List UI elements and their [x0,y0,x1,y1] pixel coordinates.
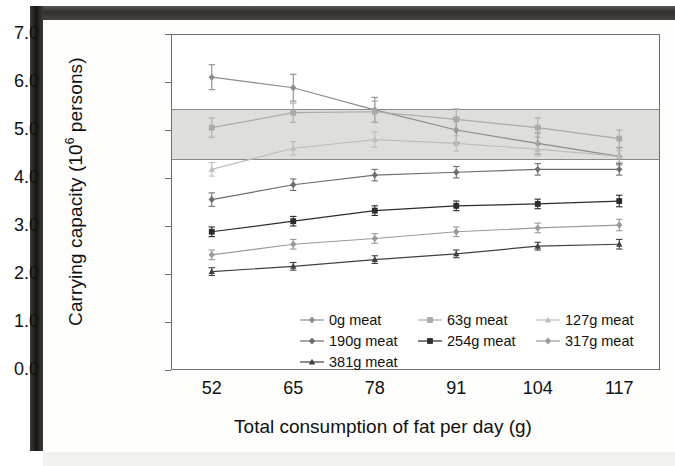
y-axis-tick-mark [165,370,171,371]
data-point [372,109,378,115]
data-point [290,84,296,91]
y-axis-tick-label: 4.0 [0,167,39,188]
data-point [209,125,215,131]
series-0g-meat [209,65,623,165]
x-axis-tick-label: 104 [523,378,553,399]
y-axis-tick-label: 2.0 [0,263,39,284]
legend-swatch-square-icon [417,335,443,347]
legend-swatch-square-icon [417,314,443,326]
legend-item: 381g meat [299,354,413,370]
legend-item: 63g meat [417,312,531,328]
data-point [372,172,378,179]
series-63g-meat [209,101,623,147]
data-point [616,198,622,204]
legend-label: 0g meat [329,312,381,328]
legend-item: 0g meat [299,312,413,328]
data-point [616,222,622,229]
data-point [372,208,378,214]
data-point [535,201,541,207]
data-point [535,166,541,173]
legend-item: 254g meat [417,333,531,349]
data-point [372,235,378,242]
data-point [209,251,215,258]
legend-item: 127g meat [535,312,649,328]
figure-page: Carrying capacity (106 persons) 0.01.02.… [43,20,675,452]
legend-label: 254g meat [447,333,516,349]
y-axis-tick-label: 0.0 [0,359,39,380]
y-axis-tick-label: 3.0 [0,215,39,236]
data-point [290,181,296,188]
series-317g-meat [209,219,623,259]
data-point [290,218,296,224]
x-axis-tick-label: 78 [365,378,385,399]
series-381g-meat [209,239,623,275]
y-axis-tick-label: 1.0 [0,311,39,332]
series-254g-meat [209,195,623,236]
legend-label: 190g meat [329,333,398,349]
y-axis-tick-label: 5.0 [0,119,39,140]
y-axis-tick-label: 6.0 [0,71,39,92]
x-axis-label: Total consumption of fat per day (g) [103,416,663,438]
scan-edge-bottom [43,452,675,466]
x-axis-tick-label: 117 [605,378,634,399]
legend-label: 317g meat [565,333,634,349]
legend-label: 63g meat [447,312,507,328]
data-point [453,117,459,123]
data-point [616,136,622,142]
data-point [453,203,459,209]
x-axis-tick-label: 52 [202,378,222,399]
data-point [290,110,296,116]
legend-swatch-triangle-icon [299,356,325,368]
data-point [209,74,215,81]
data-point [453,169,459,176]
y-axis-label-tail: persons) [65,57,86,137]
legend-item: 317g meat [535,333,649,349]
legend-swatch-diamond-icon [299,335,325,347]
data-point [209,196,215,203]
legend-label: 381g meat [329,354,398,370]
y-axis-label-main: Carrying capacity (10 [65,144,86,326]
legend-item: 190g meat [299,333,413,349]
data-point [453,228,459,235]
x-axis-tick-label: 91 [446,378,466,399]
y-axis-tick-label: 7.0 [0,23,39,44]
chart-legend: 0g meat63g meat127g meat190g meat254g me… [299,312,649,370]
y-axis-label-exponent: 6 [63,138,77,145]
x-axis-tick-label: 65 [283,378,303,399]
legend-swatch-diamond-icon [299,314,325,326]
series-190g-meat [209,164,623,207]
data-point [616,166,622,173]
y-axis-label: Carrying capacity (106 persons) [63,42,86,342]
scan-edge-top [30,6,675,20]
data-point [535,125,541,131]
data-point [290,241,296,248]
legend-label: 127g meat [565,312,634,328]
data-point [535,224,541,231]
data-point [209,229,215,235]
legend-swatch-diamond-icon [535,335,561,347]
legend-swatch-triangle-icon [535,314,561,326]
chart-figure: Carrying capacity (106 persons) 0.01.02.… [43,20,675,452]
